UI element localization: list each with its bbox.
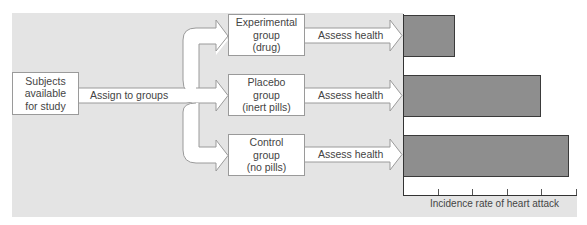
control-line-2: group <box>253 149 280 162</box>
chart-y-axis <box>403 14 404 196</box>
control-line-3: (no pills) <box>247 161 287 174</box>
chart-x-axis <box>403 195 577 196</box>
subjects-line-2: available <box>25 87 66 100</box>
subjects-line-1: Subjects <box>25 75 65 88</box>
placebo-line-3: (inert pills) <box>242 101 290 114</box>
subjects-line-3: for study <box>25 100 65 113</box>
x-axis-tick <box>576 189 577 195</box>
subjects-box: Subjects available for study <box>12 72 79 115</box>
bar-experimental <box>403 15 455 57</box>
assess-health-label-placebo: Assess health <box>318 89 383 101</box>
placebo-line-2: group <box>253 89 280 102</box>
assess-health-label-experimental: Assess health <box>318 29 383 41</box>
experimental-line-1: Experimental <box>236 16 297 29</box>
control-group-box: Control group (no pills) <box>228 134 305 176</box>
experimental-line-2: group <box>253 29 280 42</box>
x-axis-tick <box>541 189 542 195</box>
bar-placebo <box>403 75 541 117</box>
bar-control <box>403 135 569 177</box>
experimental-line-3: (drug) <box>252 41 280 54</box>
x-axis-tick <box>438 189 439 195</box>
branch-arrow-bottom-icon <box>183 103 228 171</box>
experimental-group-box: Experimental group (drug) <box>228 14 305 56</box>
control-line-1: Control <box>250 136 284 149</box>
assess-health-label-control: Assess health <box>318 148 383 160</box>
assign-label: Assign to groups <box>90 89 168 101</box>
x-axis-tick <box>507 189 508 195</box>
placebo-group-box: Placebo group (inert pills) <box>228 74 305 116</box>
x-axis-tick <box>472 189 473 195</box>
branch-arrow-middle-icon <box>196 80 228 111</box>
placebo-line-1: Placebo <box>248 76 286 89</box>
x-axis-label: Incidence rate of heart attack <box>430 198 559 209</box>
